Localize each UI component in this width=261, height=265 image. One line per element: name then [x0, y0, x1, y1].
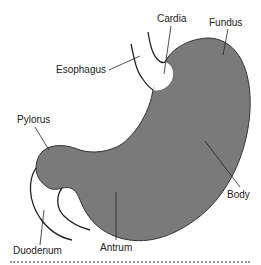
label-pylorus: Pylorus	[17, 115, 50, 125]
duodenum-leader	[40, 210, 44, 245]
label-cardia: Cardia	[157, 14, 186, 24]
label-duodenum: Duodenum	[13, 246, 62, 256]
label-esophagus: Esophagus	[56, 65, 106, 75]
clipped-caption	[10, 261, 250, 265]
esophagus-right-wall	[148, 32, 165, 63]
esophagus-left-wall	[131, 44, 153, 90]
stomach-diagram	[0, 0, 261, 265]
label-fundus: Fundus	[209, 18, 242, 28]
pylorus-leader	[35, 127, 49, 150]
label-antrum: Antrum	[100, 243, 132, 253]
label-body: Body	[227, 190, 250, 200]
